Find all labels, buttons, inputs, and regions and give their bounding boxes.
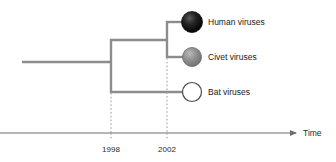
tip-labels: Human viruses Civet viruses Bat viruses xyxy=(208,17,265,97)
axis-tick-label-2002: 2002 xyxy=(158,145,176,154)
axis-label-time: Time xyxy=(303,128,322,138)
tip-label-bat: Bat viruses xyxy=(208,87,250,97)
tip-label-human: Human viruses xyxy=(208,17,265,27)
tree-branches xyxy=(22,21,184,93)
civet-viruses-node-icon[interactable] xyxy=(183,48,202,67)
time-axis: 1998 2002 Time xyxy=(0,128,322,154)
phylogenetic-tree-figure: Human viruses Civet viruses Bat viruses … xyxy=(0,0,336,162)
bat-viruses-node-icon[interactable] xyxy=(183,83,202,102)
divergence-guides xyxy=(111,58,167,133)
human-viruses-node-icon[interactable] xyxy=(182,12,203,33)
axis-tick-label-1998: 1998 xyxy=(102,145,120,154)
tip-nodes xyxy=(182,12,203,102)
tip-label-civet: Civet viruses xyxy=(208,52,257,62)
